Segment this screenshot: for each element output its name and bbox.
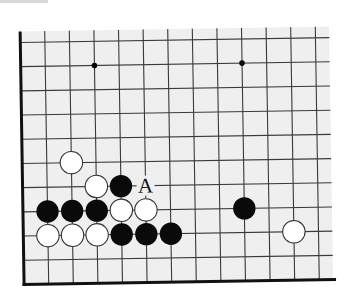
point-labels: A xyxy=(136,174,154,198)
white-stone xyxy=(60,151,83,174)
point-label-a: A xyxy=(138,174,154,198)
white-stone xyxy=(135,199,158,222)
white-stone xyxy=(86,223,109,246)
go-board: A xyxy=(0,0,354,297)
white-stone xyxy=(110,199,133,222)
white-stone xyxy=(61,224,84,247)
white-stone xyxy=(283,220,306,243)
white-stone xyxy=(85,175,108,198)
white-stone xyxy=(37,224,60,247)
go-board-diagram: A xyxy=(0,0,354,297)
